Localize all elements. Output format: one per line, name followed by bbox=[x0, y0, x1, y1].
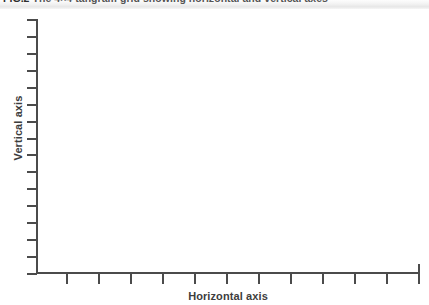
horizontal-axis-tick bbox=[322, 274, 324, 284]
horizontal-axis-tick bbox=[98, 274, 100, 284]
vertical-axis-tick bbox=[27, 70, 37, 72]
vertical-axis-line bbox=[36, 19, 38, 274]
horizontal-axis-tick bbox=[162, 274, 164, 284]
vertical-axis-tick bbox=[27, 256, 37, 258]
vertical-axis-tick bbox=[27, 239, 37, 241]
horizontal-axis-tick bbox=[258, 274, 260, 284]
vertical-axis-tick bbox=[27, 36, 37, 38]
vertical-axis-tick bbox=[27, 188, 37, 190]
horizontal-axis-tick bbox=[226, 274, 228, 284]
figure-number: FIG.2 bbox=[3, 0, 30, 4]
horizontal-axis-line bbox=[36, 272, 420, 274]
vertical-axis-tick bbox=[27, 87, 37, 89]
vertical-axis-tick bbox=[27, 121, 37, 123]
vertical-axis-tick bbox=[27, 154, 37, 156]
vertical-axis-tick bbox=[27, 138, 37, 140]
horizontal-axis-tick bbox=[386, 274, 388, 284]
horizontal-axis-tick bbox=[418, 274, 420, 284]
vertical-axis-tick bbox=[27, 273, 37, 275]
vertical-axis-label: Vertical axis bbox=[12, 83, 24, 173]
vertical-axis-tick bbox=[27, 104, 37, 106]
horizontal-axis-endcap bbox=[418, 264, 420, 274]
figure-caption-band: FIG.2 The 4×4 tangram grid showing horiz… bbox=[0, 0, 429, 9]
horizontal-axis-tick bbox=[354, 274, 356, 284]
vertical-axis-tick bbox=[27, 53, 37, 55]
horizontal-axis-label: Horizontal axis bbox=[36, 290, 420, 302]
plot-area: Vertical axis Horizontal axis bbox=[0, 9, 429, 305]
vertical-axis-tick bbox=[27, 19, 37, 21]
horizontal-axis-tick bbox=[130, 274, 132, 284]
figure-caption-text: The 4×4 tangram grid showing horizontal … bbox=[32, 0, 327, 4]
vertical-axis-tick bbox=[27, 222, 37, 224]
horizontal-axis-tick bbox=[66, 274, 68, 284]
figure-caption: FIG.2 The 4×4 tangram grid showing horiz… bbox=[3, 0, 328, 4]
horizontal-axis-tick bbox=[290, 274, 292, 284]
vertical-axis-tick bbox=[27, 171, 37, 173]
horizontal-axis-tick bbox=[194, 274, 196, 284]
vertical-axis-tick bbox=[27, 205, 37, 207]
